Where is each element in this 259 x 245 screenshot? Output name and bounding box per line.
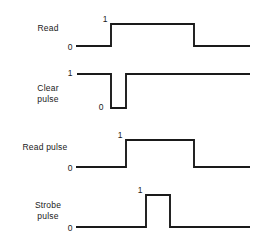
signal-label-read: Read: [8, 23, 88, 34]
level-label-strobe-pulse-low: 0: [62, 224, 78, 233]
level-label-read-pulse-high: 1: [112, 131, 128, 140]
signal-label-strobe-pulse: Strobe pulse: [8, 200, 88, 222]
level-label-clear-pulse-low: 0: [93, 103, 109, 112]
signal-label-read-pulse: Read pulse: [5, 142, 85, 153]
waveform-read-pulse: [76, 140, 250, 167]
level-label-read-high: 1: [97, 15, 113, 24]
level-label-read-low: 0: [62, 43, 78, 52]
waveform-read: [76, 24, 250, 46]
level-label-strobe-pulse-high: 1: [132, 186, 148, 195]
waveform-strobe-pulse: [76, 195, 250, 227]
signal-label-clear-pulse: Clear pulse: [8, 83, 88, 105]
level-label-clear-pulse-high: 1: [62, 69, 78, 78]
level-label-read-pulse-low: 0: [62, 164, 78, 173]
timing-diagram: Read 0 1 Clear pulse 0 1 Read pulse 0 1 …: [0, 0, 259, 245]
